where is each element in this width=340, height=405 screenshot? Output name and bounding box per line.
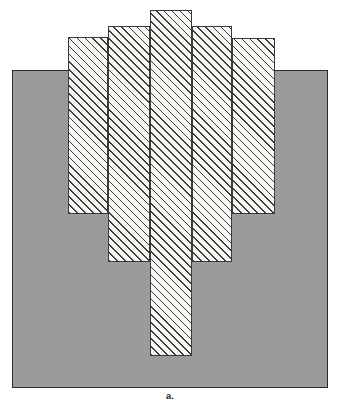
hatched-bar-1 bbox=[68, 37, 108, 214]
figure-canvas: a. bbox=[0, 0, 340, 405]
hatched-bar-5 bbox=[232, 38, 275, 214]
hatched-bar-4 bbox=[192, 26, 232, 262]
figure-caption-label: a. bbox=[0, 391, 340, 402]
figure-container: a. bbox=[0, 0, 340, 405]
hatched-bar-2 bbox=[108, 26, 150, 262]
hatched-bar-3 bbox=[150, 10, 192, 356]
